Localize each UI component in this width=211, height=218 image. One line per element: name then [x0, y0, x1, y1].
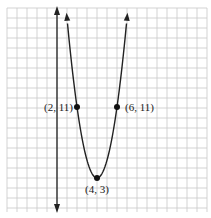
label-2-11: (2, 11) [44, 101, 73, 114]
y-axis-up-arrow-icon [54, 6, 60, 15]
label-6-11: (6, 11) [125, 101, 154, 114]
vertex-point [94, 175, 100, 181]
grid [7, 8, 207, 212]
y-axis-down-arrow-icon [54, 204, 60, 213]
parabola-graph: (2, 11) (6, 11) (4, 3) [0, 0, 211, 218]
point-6-11 [114, 104, 120, 110]
point-2-11 [74, 104, 80, 110]
label-vertex: (4, 3) [85, 183, 109, 196]
